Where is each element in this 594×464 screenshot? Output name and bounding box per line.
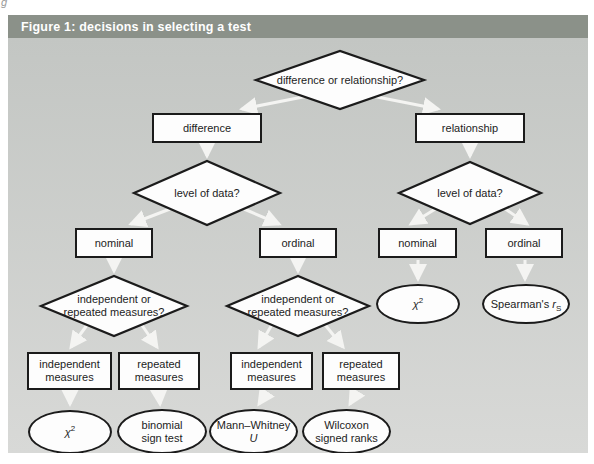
flowchart-panel: difference or relationship? level of dat…	[8, 38, 588, 453]
arrow	[244, 209, 279, 224]
page: { "header": { "title": "Figure 1: decisi…	[0, 0, 594, 464]
arrow	[504, 208, 527, 224]
figure-header: Figure 1: decisions in selecting a test	[8, 15, 588, 38]
arrow	[411, 208, 437, 224]
label-level-right: level of data?	[415, 187, 525, 200]
page-edge-artifact: g	[1, 0, 7, 8]
spearman-label: Spearman's rS	[491, 298, 561, 311]
label-level-left: level of data?	[152, 187, 262, 200]
label-measures-right: independent or repeated measures?	[243, 293, 353, 319]
label-measures-left: independent or repeated measures?	[59, 293, 169, 319]
arrow	[259, 392, 267, 404]
node-chi-square-bottom: χ2	[28, 410, 112, 453]
node-repeated-measures-1: repeated measures	[118, 352, 200, 390]
node-independent-measures-2: independent measures	[230, 352, 313, 390]
arrow	[131, 209, 170, 224]
arrow	[350, 392, 357, 404]
mann-whitney-label: Mann–WhitneyU	[217, 419, 290, 445]
chi-square-label: χ2	[413, 298, 423, 311]
node-wilcoxon: Wilcoxon signed ranks	[302, 409, 391, 453]
node-relationship: relationship	[415, 113, 525, 143]
figure-title: Figure 1: decisions in selecting a test	[21, 20, 251, 34]
node-independent-measures-1: independent measures	[27, 352, 112, 390]
node-chi-square-right: χ2	[376, 284, 460, 324]
node-mann-whitney: Mann–WhitneyU	[209, 409, 298, 453]
node-binomial-sign-test: binomial sign test	[117, 409, 207, 453]
node-nominal-left: nominal	[75, 228, 153, 258]
node-difference: difference	[152, 113, 262, 143]
label-root-question: difference or relationship?	[260, 74, 420, 87]
chi-square-label: χ2	[65, 426, 75, 439]
node-ordinal-left: ordinal	[259, 228, 337, 258]
node-repeated-measures-2: repeated measures	[322, 352, 400, 390]
node-nominal-right: nominal	[378, 228, 457, 258]
node-spearman: Spearman's rS	[482, 284, 570, 324]
arrow	[159, 392, 160, 404]
node-ordinal-right: ordinal	[485, 228, 563, 258]
